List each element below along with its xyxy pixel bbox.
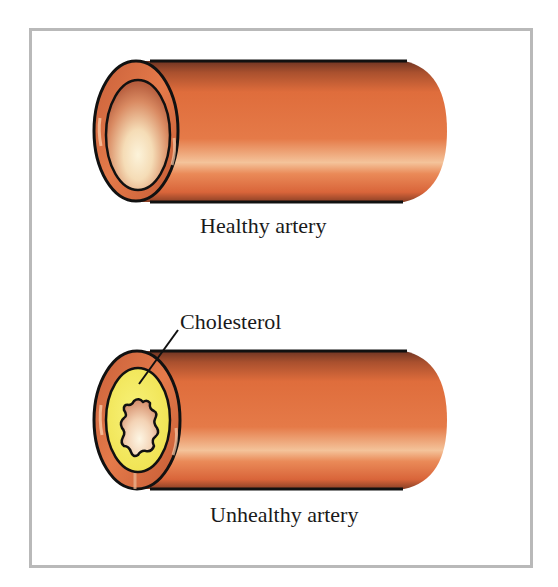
unhealthy-artery — [94, 330, 447, 489]
healthy-artery-lumen — [106, 80, 170, 190]
cholesterol-label: Cholesterol — [180, 311, 281, 333]
healthy-artery-label: Healthy artery — [200, 215, 326, 237]
unhealthy-artery-label: Unhealthy artery — [210, 504, 358, 526]
healthy-artery — [94, 61, 447, 202]
artery-diagram — [0, 0, 558, 587]
unhealthy-artery-wall — [137, 351, 447, 489]
healthy-artery-wall — [136, 61, 447, 202]
